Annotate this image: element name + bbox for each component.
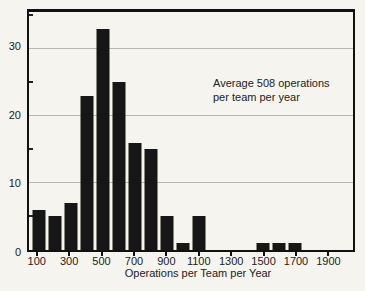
y-tick-label-30: 30 (0, 40, 21, 53)
gridline-20 (29, 115, 353, 116)
x-axis-title: Operations per Team per Year (125, 267, 272, 280)
annotation-line-2: per team per year (213, 90, 330, 104)
chart-annotation: Average 508 operations per team per year (213, 76, 330, 104)
x-tick-label-1700: 1700 (284, 255, 308, 268)
bar-1100 (192, 216, 205, 250)
y-minor-tick-35 (29, 14, 33, 16)
bar-700 (128, 143, 141, 250)
x-tick-label-100: 100 (28, 255, 46, 268)
x-tick-label-500: 500 (92, 255, 110, 268)
bar-400 (80, 96, 93, 250)
bar-1700 (288, 243, 301, 250)
bar-500 (96, 29, 109, 250)
bar-600 (112, 82, 125, 250)
x-tick-label-1900: 1900 (316, 255, 340, 268)
y-tick-label-20: 20 (0, 109, 21, 122)
bar-300 (64, 203, 77, 250)
y-tick-label-0: 0 (0, 246, 21, 259)
histogram-chart: 0102030 10030050070090011001300150017001… (0, 0, 365, 291)
bar-1000 (176, 243, 189, 250)
bar-1500 (256, 243, 269, 250)
bar-100 (32, 210, 45, 250)
y-minor-tick-15 (29, 148, 33, 150)
gridline-10 (29, 182, 353, 183)
y-minor-tick-25 (29, 81, 33, 83)
y-tick-label-10: 10 (0, 177, 21, 190)
bar-200 (48, 216, 61, 250)
gridline-30 (29, 48, 353, 49)
annotation-line-1: Average 508 operations (213, 76, 330, 90)
bar-800 (144, 149, 157, 250)
plot-area (27, 9, 355, 252)
x-tick-label-300: 300 (60, 255, 78, 268)
bar-1600 (272, 243, 285, 250)
bar-900 (160, 216, 173, 250)
